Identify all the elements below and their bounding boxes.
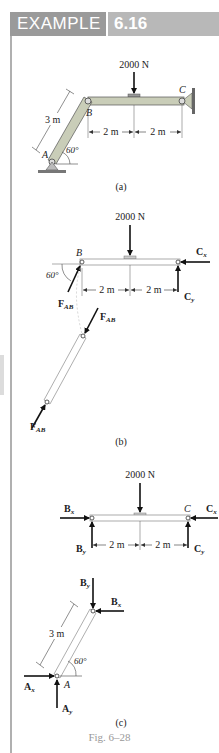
figure-caption: Fig. 6–28: [0, 731, 219, 743]
dim-left-c: 2 m: [109, 539, 125, 550]
angle-label-b: 60°: [46, 270, 59, 280]
force-by-label-c2: By: [80, 577, 91, 590]
dim-right-a: 2 m: [150, 126, 166, 137]
dim-left-b: 2 m: [99, 284, 115, 295]
beam-bc-c: [90, 515, 190, 521]
load-label-a: 2000 N: [119, 59, 149, 70]
part-label-a: (a): [115, 181, 126, 193]
beam-bc: [88, 97, 184, 105]
point-b-label-b: B: [76, 247, 82, 258]
beam-bc-b: [80, 259, 180, 265]
dim-right-c: 2 m: [155, 539, 171, 550]
point-a-label-c: A: [63, 679, 71, 690]
point-b-label-a: B: [86, 107, 92, 118]
angle-label-a: 60°: [66, 145, 79, 155]
force-bx-label-c2: Bx: [111, 596, 122, 609]
force-bx-label-c: Bx: [64, 503, 75, 516]
load-label-b: 2000 N: [115, 211, 145, 222]
force-fab-label-b3: FAB: [30, 421, 46, 434]
length-label-a: 3 m: [45, 114, 61, 125]
load-label-c: 2000 N: [125, 469, 155, 480]
force-cy-label-c: Cy: [194, 543, 205, 556]
angle-label-c: 60°: [74, 656, 87, 666]
figure-6-28: 2000 N C B A 3 m 60°: [0, 0, 219, 753]
force-cy-label-b: Cy: [184, 291, 195, 304]
dim-left-a: 2 m: [103, 126, 119, 137]
force-fab-label-b2: FAB: [100, 311, 116, 324]
part-label-b: (b): [115, 436, 127, 448]
force-fab-label-b1: FAB: [58, 298, 74, 311]
part-c-diagram: 2000 N C Bx By Cx Cy 2 m 2 m By: [24, 469, 218, 729]
point-a-label-a: A: [41, 149, 49, 160]
force-ax-label-c: Ax: [24, 681, 35, 694]
length-label-c: 3 m: [49, 628, 65, 639]
point-c-label-c: C: [184, 503, 191, 514]
member-ab-c: [54, 609, 96, 678]
part-label-c: (c): [115, 717, 126, 729]
part-a-diagram: 2000 N C B A 3 m 60°: [32, 59, 195, 193]
ground-support-a: [38, 170, 66, 173]
point-c-label-a: C: [179, 84, 186, 95]
dim-right-b: 2 m: [146, 284, 162, 295]
member-ab-b: [44, 334, 86, 404]
force-cx-label-b: Cx: [196, 246, 207, 259]
force-cx-label-c: Cx: [206, 503, 217, 516]
part-b-diagram: 2000 N B Cx Cy FAB 60° 2 m 2 m FA: [30, 211, 210, 448]
force-by-label-c: By: [76, 543, 87, 556]
force-ay-label-c: Ay: [62, 703, 73, 716]
wall-support-c: [192, 88, 195, 114]
